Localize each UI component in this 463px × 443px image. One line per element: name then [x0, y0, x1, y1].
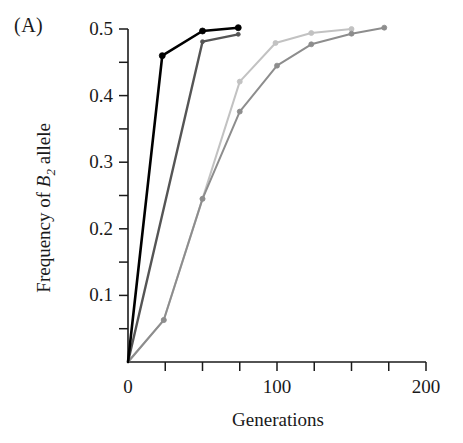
y-axis-label-prefix: Frequency of — [33, 187, 54, 293]
series-replicate-2-dark-gray — [128, 32, 240, 362]
data-point-marker — [200, 28, 206, 34]
y-tick-label: 0.2 — [89, 218, 113, 239]
series-line — [128, 34, 238, 362]
y-tick-label: 0.3 — [89, 151, 113, 172]
data-point-marker — [273, 40, 278, 45]
y-tick-label: 0.1 — [89, 284, 113, 305]
data-point-marker — [201, 40, 205, 44]
data-point-marker — [349, 27, 354, 32]
data-point-marker — [349, 31, 354, 36]
data-point-marker — [200, 196, 205, 201]
y-axis-label-symbol: B — [33, 176, 54, 188]
y-tick-label: 0.4 — [89, 85, 113, 106]
x-tick-label: 0 — [123, 376, 133, 397]
data-point-marker — [309, 42, 314, 47]
line-chart: 0.10.20.30.40.50100200 — [0, 0, 463, 443]
series-replicate-1-black — [128, 25, 241, 362]
y-axis-label: Frequency of B2 allele — [33, 78, 59, 338]
y-axis-label-suffix: allele — [33, 123, 54, 169]
data-series — [128, 25, 387, 362]
axes — [128, 29, 426, 362]
data-point-marker — [235, 25, 241, 31]
data-point-marker — [159, 53, 165, 59]
data-point-marker — [161, 318, 166, 323]
axis-tick-labels: 0.10.20.30.40.50100200 — [89, 18, 440, 397]
data-point-marker — [237, 109, 242, 114]
figure-panel-a: (A) 0.10.20.30.40.50100200 Frequency of … — [0, 0, 463, 443]
data-point-marker — [382, 25, 387, 30]
series-replicate-4-light-gray — [128, 27, 354, 363]
data-point-marker — [309, 31, 314, 36]
data-point-marker — [236, 32, 240, 36]
x-tick-label: 100 — [263, 376, 292, 397]
x-tick-label: 200 — [412, 376, 441, 397]
series-line — [128, 28, 238, 362]
data-point-marker — [275, 63, 280, 68]
y-axis-label-subscript: 2 — [43, 169, 58, 176]
x-axis-label: Generations — [128, 409, 428, 431]
y-tick-label: 0.5 — [89, 18, 113, 39]
data-point-marker — [237, 79, 242, 84]
